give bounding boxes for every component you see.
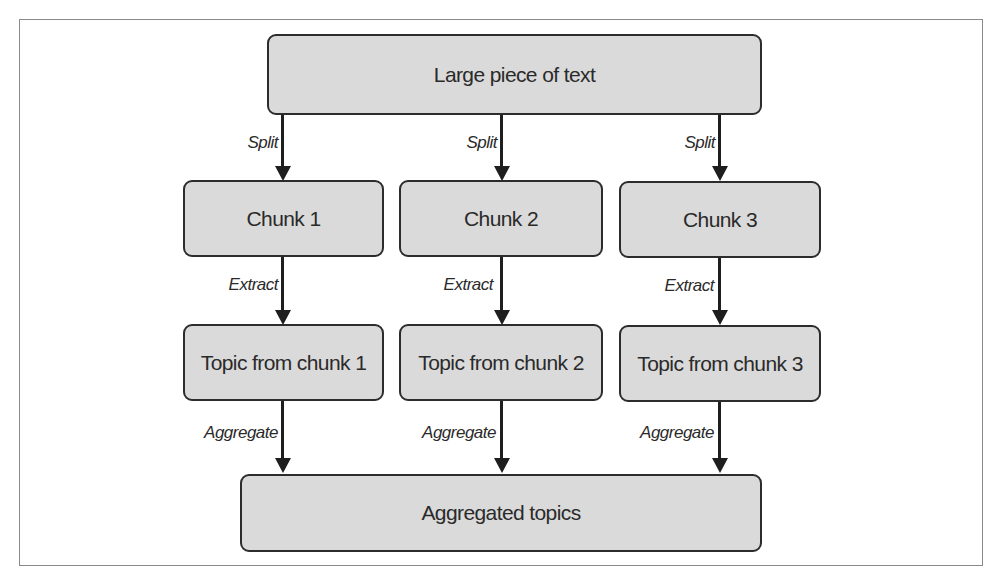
node-label: Topic from chunk 1 <box>201 351 366 375</box>
edge-aggregate-1 <box>281 401 284 459</box>
node-label: Topic from chunk 2 <box>418 351 583 375</box>
edge-label-aggregate-2: Aggregate <box>398 423 496 443</box>
node-topic-chunk-2: Topic from chunk 2 <box>399 324 603 401</box>
node-label: Chunk 2 <box>464 207 538 231</box>
edge-label-split-2: Split <box>439 133 497 153</box>
edge-label-split-3: Split <box>657 133 715 153</box>
edge-extract-1 <box>281 257 284 311</box>
node-chunk-2: Chunk 2 <box>399 180 603 257</box>
arrowhead-icon <box>494 310 510 325</box>
edge-label-extract-1: Extract <box>200 275 278 295</box>
node-topic-chunk-1: Topic from chunk 1 <box>183 324 384 401</box>
edge-split-1 <box>281 115 284 167</box>
edge-extract-3 <box>718 258 721 311</box>
node-topic-chunk-3: Topic from chunk 3 <box>619 325 821 402</box>
arrowhead-icon <box>275 166 291 181</box>
edge-extract-2 <box>500 257 503 311</box>
arrowhead-icon <box>712 310 728 325</box>
node-chunk-3: Chunk 3 <box>619 181 821 258</box>
arrowhead-icon <box>712 458 728 473</box>
edge-split-3 <box>718 115 721 167</box>
arrowhead-icon <box>712 166 728 181</box>
node-large-piece-of-text: Large piece of text <box>267 34 762 115</box>
node-label: Chunk 3 <box>683 208 757 232</box>
node-label: Chunk 1 <box>246 207 320 231</box>
node-chunk-1: Chunk 1 <box>183 180 384 257</box>
arrowhead-icon <box>494 458 510 473</box>
arrowhead-icon <box>275 458 291 473</box>
edge-split-2 <box>500 115 503 167</box>
node-aggregated-topics: Aggregated topics <box>240 474 762 552</box>
edge-aggregate-2 <box>500 401 503 459</box>
arrowhead-icon <box>494 166 510 181</box>
arrowhead-icon <box>275 310 291 325</box>
node-label: Aggregated topics <box>421 501 580 525</box>
edge-label-aggregate-3: Aggregate <box>616 423 714 443</box>
node-label: Topic from chunk 3 <box>637 352 802 376</box>
node-label: Large piece of text <box>434 63 595 87</box>
edge-label-aggregate-1: Aggregate <box>180 423 278 443</box>
edge-label-extract-3: Extract <box>636 276 714 296</box>
edge-label-split-1: Split <box>220 133 278 153</box>
edge-aggregate-3 <box>718 402 721 459</box>
edge-label-extract-2: Extract <box>415 275 493 295</box>
